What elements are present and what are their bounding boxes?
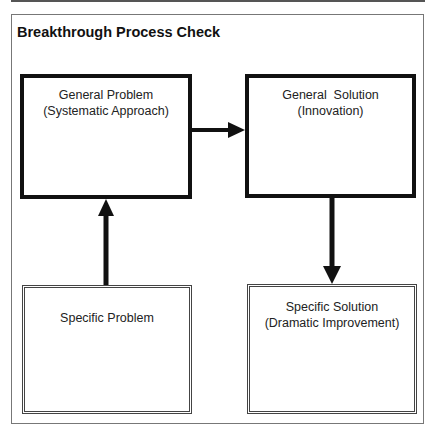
specific-solution-sublabel: (Dramatic Improvement) (250, 315, 414, 331)
specific-solution-label: Specific Solution (250, 299, 414, 315)
diagram-title: Breakthrough Process Check (17, 24, 220, 40)
general-problem-box: General Problem (Systematic Approach) (20, 74, 192, 199)
specific-problem-label: Specific Problem (25, 310, 189, 326)
specific-solution-box: Specific Solution (Dramatic Improvement) (247, 284, 417, 414)
general-solution-label: General Solution (249, 87, 412, 103)
top-rule (11, 0, 425, 2)
specific-problem-box: Specific Problem (22, 285, 192, 414)
general-problem-label: General Problem (24, 87, 188, 103)
general-problem-sublabel: (Systematic Approach) (24, 103, 188, 119)
general-solution-box: General Solution (Innovation) (245, 74, 416, 198)
general-solution-sublabel: (Innovation) (249, 103, 412, 119)
